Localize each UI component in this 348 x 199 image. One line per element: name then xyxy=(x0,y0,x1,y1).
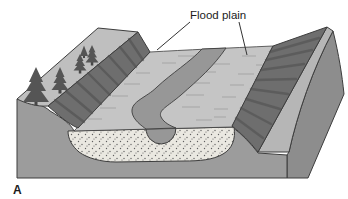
flood-plain-block-diagram: Flood plain A xyxy=(0,0,348,199)
leader-line-left xyxy=(157,22,190,50)
diagram-canvas: Flood plain A xyxy=(0,0,348,199)
panel-letter: A xyxy=(13,183,22,197)
flood-plain-label: Flood plain xyxy=(190,9,246,21)
